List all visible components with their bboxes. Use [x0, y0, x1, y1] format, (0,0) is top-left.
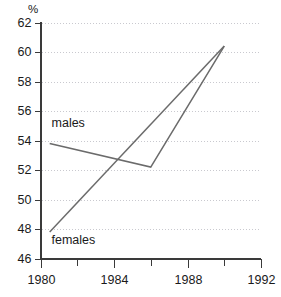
x-tick-label-1988: 1988	[175, 273, 203, 287]
y-tick-label-60: 60	[18, 45, 32, 59]
line-chart: 464850525456586062 1980198419881992 % ma…	[0, 0, 281, 297]
gridlines-group	[42, 24, 262, 260]
y-tick-label-62: 62	[18, 16, 32, 30]
x-tick-label-1984: 1984	[101, 273, 129, 287]
y-tick-label-56: 56	[18, 104, 32, 118]
y-tick-label-52: 52	[18, 163, 32, 177]
y-axis-labels-group: 464850525456586062	[18, 16, 32, 266]
y-axis-unit-label: %	[28, 3, 38, 15]
y-tick-label-46: 46	[18, 252, 32, 266]
y-tick-label-48: 48	[18, 222, 32, 236]
series-label-females: females	[52, 233, 96, 247]
chart-canvas: 464850525456586062 1980198419881992 % ma…	[0, 0, 281, 297]
data-series-group	[50, 46, 225, 232]
y-tick-label-54: 54	[18, 134, 32, 148]
series-line-males	[50, 46, 225, 167]
x-axis-labels-group: 1980198419881992	[28, 273, 276, 287]
y-tick-label-50: 50	[18, 193, 32, 207]
series-label-males: males	[52, 116, 85, 130]
series-line-females	[50, 46, 225, 232]
y-tick-label-58: 58	[18, 75, 32, 89]
x-tick-label-1992: 1992	[248, 273, 276, 287]
x-tick-label-1980: 1980	[28, 273, 56, 287]
series-annotations-group: malesfemales	[52, 116, 96, 247]
